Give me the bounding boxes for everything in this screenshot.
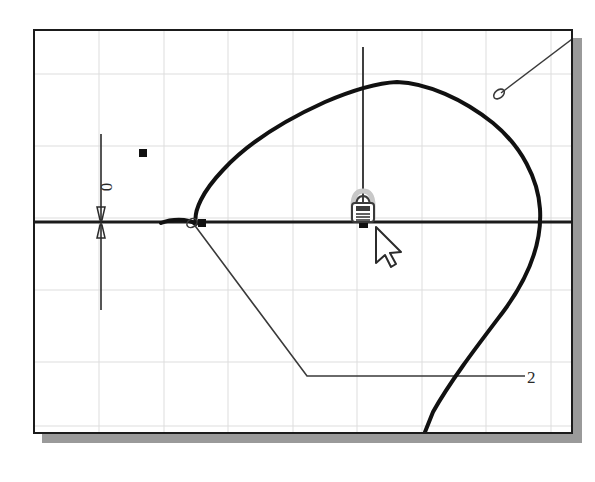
lock-body-icon [352,203,374,222]
control-point-square[interactable] [139,149,147,157]
dimension-value-zero[interactable]: 0 [97,183,116,192]
leader-line-two[interactable] [193,223,525,376]
endpoint-square-left[interactable] [198,219,206,227]
dimension-value-two[interactable]: 2 [527,368,536,387]
arrow-pointer-icon [376,227,401,267]
sketch-vector-layer: 0 2 [35,31,571,432]
lock-constraint-icon[interactable] [352,191,374,222]
leader-line-top-right[interactable] [492,33,571,101]
screenshot-root: 0 2 [0,0,595,482]
sketch-canvas[interactable]: 0 2 [33,29,573,434]
